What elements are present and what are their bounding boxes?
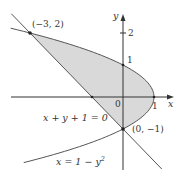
y-tick-2-label: 2 — [128, 28, 134, 38]
point-y1-dot — [122, 64, 125, 67]
point-x1-dot — [153, 96, 156, 99]
parabola-eq-exp: 2 — [100, 155, 105, 163]
parabola-eq-main: x = 1 − y — [56, 156, 101, 167]
parabola-equation-label: x = 1 − y2 — [56, 155, 105, 167]
point-a-dot — [28, 31, 32, 35]
y-axis-label: y — [112, 10, 119, 21]
point-a-label: (−3, 2) — [32, 19, 64, 29]
point-xm1-dot — [91, 96, 94, 99]
line-equation-label: x + y + 1 = 0 — [43, 112, 108, 123]
y-tick-1-label: 1 — [127, 55, 133, 65]
region-diagram: (−3, 2) (0, −1) x + y + 1 = 0 x = 1 − y2… — [0, 0, 183, 178]
x-axis-label: x — [168, 98, 174, 109]
origin-label: 0 — [115, 99, 121, 109]
y-axis-arrow-icon — [121, 14, 126, 21]
point-b-label: (0, −1) — [132, 124, 164, 134]
x-tick-1-label: 1 — [152, 101, 158, 111]
point-b-dot — [121, 127, 125, 131]
